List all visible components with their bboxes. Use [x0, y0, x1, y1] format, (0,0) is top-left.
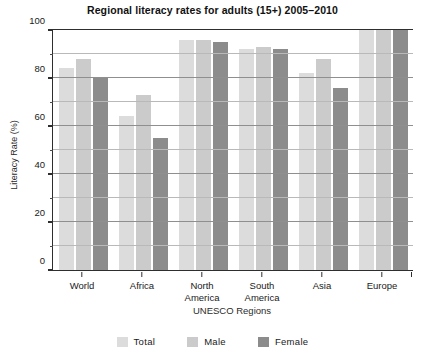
bars-layer [53, 30, 413, 270]
bar-world-male [76, 59, 91, 270]
bar-europe-female [393, 30, 408, 270]
bar-south-america-male [256, 47, 271, 270]
x-tick-label-line: World [52, 280, 112, 292]
bar-europe-male [376, 30, 391, 270]
x-tick-world: World [52, 272, 112, 304]
bar-asia-male [316, 59, 331, 270]
y-tick-mark-minor [50, 54, 53, 55]
bar-group [293, 30, 353, 270]
plot-area: 020406080100 [52, 30, 413, 271]
x-tick-south-america: SouthAmerica [232, 272, 292, 304]
bar-north-america-male [196, 40, 211, 270]
chart-figure: Regional literacy rates for adults (15+)… [0, 0, 425, 358]
bar-world-female [93, 78, 108, 270]
x-tick-mark [261, 272, 262, 277]
bar-europe-total [359, 30, 374, 270]
x-tick-europe: Europe [352, 272, 412, 304]
y-axis-title: Literacy Rate (%) [9, 100, 19, 210]
bar-group [233, 30, 293, 270]
legend-item-total[interactable]: Total [117, 336, 156, 347]
bar-group [113, 30, 173, 270]
x-tick-label-line: South [232, 280, 292, 292]
y-tick-label: 60 [34, 110, 45, 121]
chart-title: Regional literacy rates for adults (15+)… [0, 4, 425, 16]
y-tick-mark-minor [50, 246, 53, 247]
x-tick-label-line: America [232, 292, 292, 304]
y-tick-mark-minor [50, 198, 53, 199]
y-tick-mark [48, 269, 53, 270]
y-tick-label: 100 [29, 14, 45, 25]
x-axis-ticks: WorldAfricaNorthAmericaSouthAmericaAsiaE… [52, 272, 412, 304]
y-tick-mark [48, 221, 53, 222]
y-tick-mark [48, 77, 53, 78]
x-tick-mark [201, 272, 202, 277]
y-tick-mark [48, 29, 53, 30]
y-tick-mark [48, 125, 53, 126]
bar-asia-female [333, 88, 348, 270]
legend-item-male[interactable]: Male [187, 336, 226, 347]
bar-south-america-female [273, 49, 288, 270]
x-axis-title: UNESCO Regions [52, 305, 412, 316]
bar-north-america-total [179, 40, 194, 270]
bar-africa-female [153, 138, 168, 270]
x-tick-north-america: NorthAmerica [172, 272, 232, 304]
bar-group [173, 30, 233, 270]
bar-africa-total [119, 116, 134, 270]
x-tick-mark [81, 272, 82, 277]
y-tick-label: 40 [34, 158, 45, 169]
bar-group [353, 30, 413, 270]
y-tick-mark-minor [50, 150, 53, 151]
legend-label: Total [134, 336, 156, 347]
legend-label: Female [275, 336, 308, 347]
x-tick-mark [321, 272, 322, 277]
x-tick-label-line: North [172, 280, 232, 292]
bar-world-total [59, 68, 74, 270]
legend-label: Male [204, 336, 226, 347]
bar-africa-male [136, 95, 151, 270]
bar-north-america-female [213, 42, 228, 270]
x-axis-end-tick [411, 272, 412, 277]
y-tick-label: 0 [40, 254, 45, 265]
x-tick-asia: Asia [292, 272, 352, 304]
legend-swatch-female [258, 337, 269, 347]
legend-swatch-total [117, 337, 128, 347]
y-tick-mark [48, 173, 53, 174]
x-tick-mark [141, 272, 142, 277]
legend-item-female[interactable]: Female [258, 336, 308, 347]
x-tick-label-line: Europe [352, 280, 412, 292]
bar-asia-total [299, 73, 314, 270]
bar-group [53, 30, 113, 270]
y-tick-mark-minor [50, 102, 53, 103]
x-tick-label-line: Africa [112, 280, 172, 292]
bar-south-america-total [239, 49, 254, 270]
x-tick-mark [381, 272, 382, 277]
x-tick-label-line: America [172, 292, 232, 304]
chart-legend: TotalMaleFemale [0, 336, 425, 347]
y-tick-label: 80 [34, 62, 45, 73]
x-tick-label-line: Asia [292, 280, 352, 292]
y-tick-label: 20 [34, 206, 45, 217]
x-tick-africa: Africa [112, 272, 172, 304]
legend-swatch-male [187, 337, 198, 347]
